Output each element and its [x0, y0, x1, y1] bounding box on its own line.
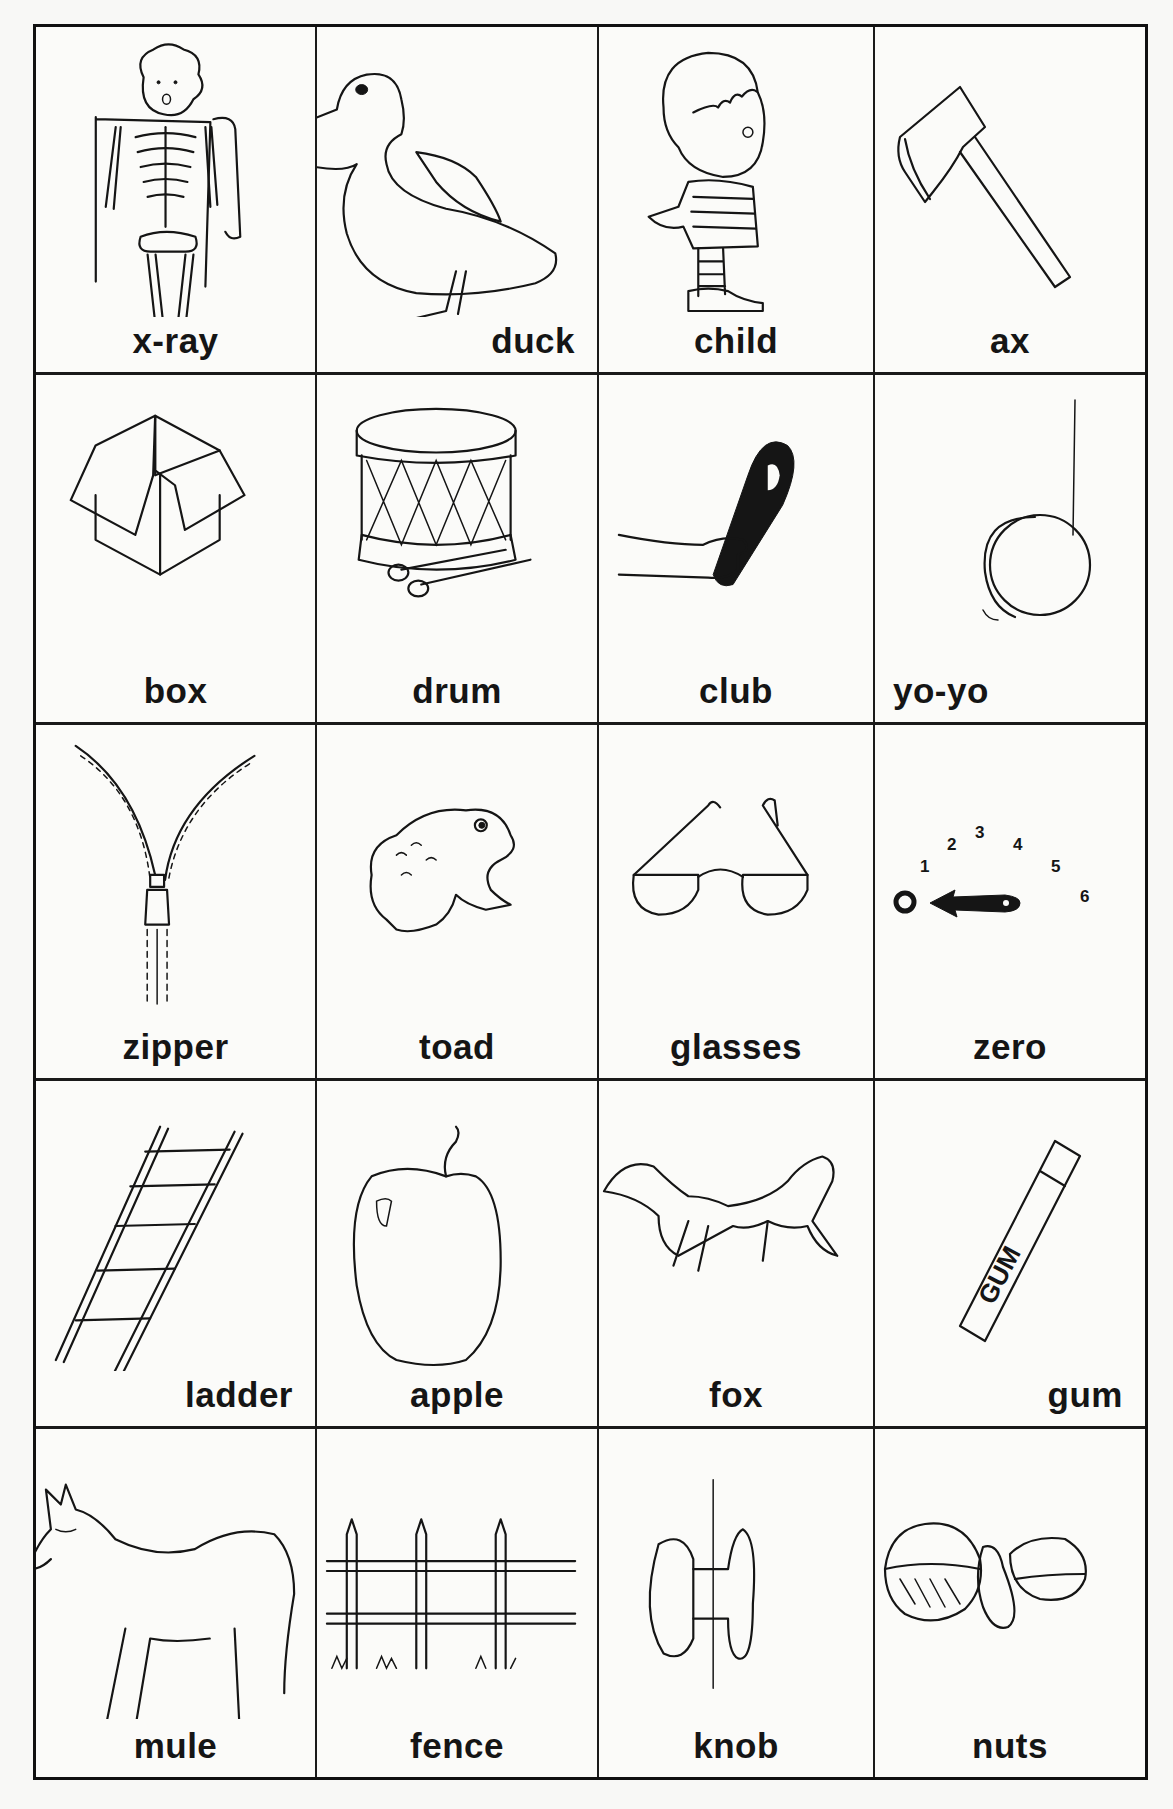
- yo-yo-icon: [875, 375, 1145, 665]
- word-label: nuts: [875, 1728, 1145, 1763]
- cell-child: child: [599, 27, 875, 375]
- word-label: child: [599, 323, 873, 358]
- word-label: zipper: [36, 1029, 315, 1064]
- apple-icon: [317, 1081, 597, 1371]
- word-label: toad: [317, 1029, 597, 1064]
- hand-holding-club-icon: [599, 375, 873, 665]
- cell-ax: ax: [875, 27, 1145, 375]
- cell-fence: fence: [317, 1429, 599, 1777]
- dial-pointing-to-zero-icon: 1 2 3 4 5 6: [875, 725, 1145, 1015]
- dial-number-1: 1: [920, 857, 929, 876]
- worksheet-page: x-ray duck: [0, 0, 1173, 1809]
- cell-yo-yo: yo-yo: [875, 375, 1145, 725]
- cell-drum: drum: [317, 375, 599, 725]
- word-label: glasses: [599, 1029, 873, 1064]
- ladder-icon: [36, 1081, 315, 1371]
- fence-icon: [317, 1429, 597, 1719]
- word-label: apple: [317, 1377, 597, 1412]
- word-label: box: [36, 673, 315, 708]
- word-label: fox: [599, 1377, 873, 1412]
- cell-zero: 1 2 3 4 5 6 zero: [875, 725, 1145, 1081]
- cell-toad: toad: [317, 725, 599, 1081]
- cell-knob: knob: [599, 1429, 875, 1777]
- word-label: gum: [875, 1377, 1145, 1412]
- zipper-icon: [36, 725, 315, 1015]
- gum-pack-icon: GUM: [875, 1081, 1145, 1371]
- word-label: ax: [875, 323, 1145, 358]
- fox-icon: [599, 1081, 873, 1371]
- cell-duck: duck: [317, 27, 599, 375]
- duck-icon: [317, 27, 597, 317]
- open-box-icon: [36, 375, 315, 665]
- cell-gum: GUM gum: [875, 1081, 1145, 1429]
- cell-club: club: [599, 375, 875, 725]
- cell-mule: mule: [36, 1429, 317, 1777]
- word-label: drum: [317, 673, 597, 708]
- word-label: duck: [317, 323, 597, 358]
- toad-icon: [317, 725, 597, 1015]
- mule-icon: [36, 1429, 315, 1719]
- word-label: ladder: [36, 1377, 315, 1412]
- cell-apple: apple: [317, 1081, 599, 1429]
- ax-icon: [875, 27, 1145, 317]
- cell-fox: fox: [599, 1081, 875, 1429]
- drum-with-sticks-icon: [317, 375, 597, 665]
- dial-number-5: 5: [1051, 857, 1060, 876]
- dial-number-3: 3: [975, 823, 984, 842]
- child-icon: [599, 27, 873, 317]
- cell-ladder: ladder: [36, 1081, 317, 1429]
- word-label: x-ray: [36, 323, 315, 358]
- cell-nuts: nuts: [875, 1429, 1145, 1777]
- door-knob-icon: [599, 1429, 873, 1719]
- cell-x-ray: x-ray: [36, 27, 317, 375]
- cell-box: box: [36, 375, 317, 725]
- word-label: fence: [317, 1728, 597, 1763]
- eyeglasses-icon: [599, 725, 873, 1015]
- dial-number-6: 6: [1080, 887, 1089, 906]
- word-label: mule: [36, 1728, 315, 1763]
- dial-number-2: 2: [947, 835, 956, 854]
- nuts-icon: [875, 1429, 1145, 1719]
- cell-zipper: zipper: [36, 725, 317, 1081]
- dial-number-4: 4: [1013, 835, 1023, 854]
- picture-word-grid: x-ray duck: [33, 24, 1148, 1780]
- word-label: knob: [599, 1728, 873, 1763]
- word-label: zero: [875, 1029, 1145, 1064]
- cell-glasses: glasses: [599, 725, 875, 1081]
- word-label: yo-yo: [875, 673, 1145, 708]
- word-label: club: [599, 673, 873, 708]
- skeleton-xray-icon: [36, 27, 315, 317]
